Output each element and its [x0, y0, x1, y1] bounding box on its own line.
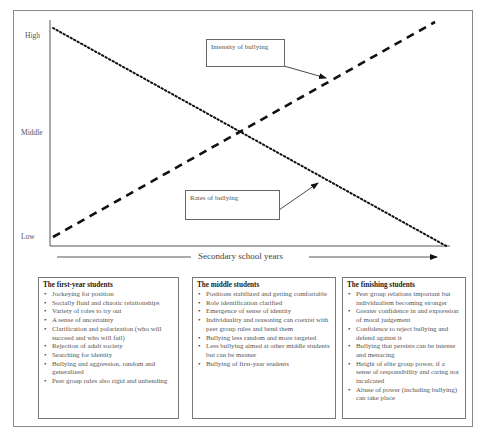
y-label-high: High	[25, 31, 40, 40]
x-axis-label: Secondary school years	[198, 251, 283, 261]
list-item: Emergence of sense of identity	[197, 307, 331, 316]
group-title: The finishing students	[347, 281, 461, 289]
list-item: Peer group rules also rigid and unbendin…	[43, 377, 174, 386]
group-title: The first-year students	[43, 281, 174, 289]
list-item: Bullying and aggression, random and gene…	[43, 360, 174, 377]
list-item: Positions stabilized and getting comfort…	[197, 290, 331, 299]
list-item: Confidence to reject bullying and defend…	[347, 325, 461, 342]
group-title: The middle students	[197, 281, 331, 289]
list-item: Jockeying for position	[43, 290, 174, 299]
list-item: Less bullying aimed at other middle stud…	[197, 342, 331, 359]
rates-callout-arrow	[279, 183, 318, 210]
list-item: Role identification clarified	[197, 299, 331, 308]
list-item: Individuality and reasoning can coexist …	[197, 316, 331, 333]
list-item: Height of elite group power, if a sense …	[347, 360, 461, 386]
y-label-middle: Middle	[21, 128, 43, 137]
first-year-students-box: The first-year students Jockeying for po…	[38, 277, 179, 419]
list-item: Variety of roles to try out	[43, 307, 174, 316]
list-item: Clarification and polarization (who will…	[43, 325, 174, 342]
list-item: A sense of uncertainty	[43, 316, 174, 325]
list-item: Searching for identity	[43, 351, 174, 360]
y-label-low: Low	[21, 232, 35, 241]
middle-students-box: The middle students Positions stabilized…	[192, 277, 336, 419]
list-item: Abuse of power (including bullying) can …	[347, 386, 461, 403]
list-item: Socially fluid and chaotic relationships	[43, 299, 174, 308]
list-item: Greater confidence in and expression of …	[347, 307, 461, 324]
rates-label-box: Rates of bullying	[185, 190, 280, 220]
intensity-label-box: Intensity of bullying	[206, 39, 285, 67]
list-item: Rejection of adult society	[43, 342, 174, 351]
list-item: Bullying less random and more targeted	[197, 334, 331, 343]
list-item: Bullying of first-year students	[197, 360, 331, 369]
finishing-students-box: The finishing students Peer group relati…	[342, 277, 466, 419]
list-item: Peer group relations important but indiv…	[347, 290, 461, 307]
list-item: Bullying that persists can be intense an…	[347, 342, 461, 359]
intensity-callout-arrow	[284, 66, 326, 78]
